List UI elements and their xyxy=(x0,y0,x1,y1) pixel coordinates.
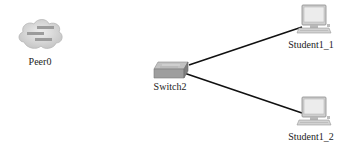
cloud-icon xyxy=(16,16,64,52)
node-label: Student1_2 xyxy=(286,131,336,142)
network-diagram-canvas: Peer0 Switch2 Student1_1 xyxy=(0,0,348,153)
node-label: Student1_1 xyxy=(286,39,336,50)
node-switch2[interactable]: Switch2 xyxy=(148,58,192,94)
node-label: Peer0 xyxy=(16,56,64,67)
node-label: Switch2 xyxy=(148,81,192,92)
switch-icon xyxy=(152,60,192,80)
node-student1-2[interactable]: Student1_2 xyxy=(286,95,336,145)
pc-icon xyxy=(296,3,332,37)
node-peer0[interactable]: Peer0 xyxy=(16,16,66,68)
link-switch2-student1-2[interactable] xyxy=(184,73,302,113)
pc-icon xyxy=(296,95,332,129)
node-student1-1[interactable]: Student1_1 xyxy=(286,3,336,53)
